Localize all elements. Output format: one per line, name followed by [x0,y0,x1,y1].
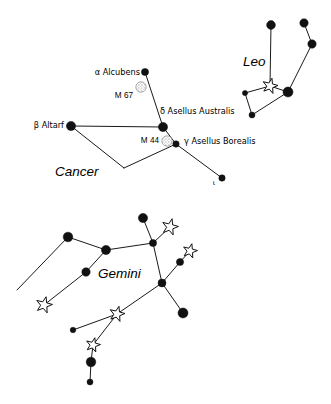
star-cancer-delta-label: δ Asellus Australis [160,106,235,116]
star-cancer-iota-dot-icon [219,175,225,181]
star-gemini-9-dot-icon [86,357,96,367]
constellation-line-leo-5 [245,93,252,115]
star-leo-regulus-open-star-icon [263,78,278,93]
star-gemini-0-dot-icon [138,213,147,222]
star-cancer-alpha-dot-icon [141,68,148,75]
constellation-line-gemini-2 [106,243,153,250]
star-chart-canvas: M 67M 44α Alcubensβ Altarfδ Asellus Aust… [0,0,331,404]
constellation-name-cancer: Cancer [55,164,99,179]
star-leo-4-dot-icon [242,90,247,95]
star-gemini-13-open-star-icon [37,297,53,313]
star-cancer-gamma-label: γ Asellus Borealis [184,136,256,146]
star-cancer-beta-dot-icon [66,121,75,130]
constellation-line-gemini-7 [44,272,86,305]
star-leo-0-dot-icon [267,21,276,30]
constellation-line-leo-0 [270,25,271,86]
star-cancer-beta-label: β Altarf [34,120,65,130]
constellation-line-gemini-4 [68,237,106,250]
star-cancer-delta-dot-icon [158,122,167,131]
cluster-label-m44: M 44 [141,136,160,145]
constellation-names-layer: CancerLeoGemini [55,54,266,281]
star-chart-figure: M 67M 44α Alcubensβ Altarfδ Asellus Aust… [0,0,331,404]
star-leo-2-dot-icon [308,40,316,48]
star-cancer-alpha-label: α Alcubens [95,67,140,77]
star-gemini-2-dot-icon [63,232,73,242]
constellation-line-gemini-11 [117,283,162,314]
star-cancer-gamma-dot-icon [173,141,179,147]
star-gemini-5-dot-icon [158,279,166,287]
cluster-m44-icon [162,136,172,146]
star-gemini-15-open-star-icon [87,338,101,352]
constellation-line-cancer-5 [176,144,222,178]
star-gemini-1-dot-icon [149,239,156,246]
constellation-name-gemini: Gemini [98,266,142,281]
star-gemini-castor-open-star-icon [163,219,179,235]
star-gemini-3-dot-icon [101,245,110,254]
constellation-name-leo: Leo [243,54,266,69]
star-cancer-iota-label: ι [213,179,216,187]
star-leo-1-dot-icon [300,19,308,27]
constellation-line-cancer-0 [145,72,163,127]
star-gemini-10-dot-icon [87,379,93,385]
star-leo-5-dot-icon [249,112,255,118]
star-gemini-8-dot-icon [70,327,76,333]
constellation-line-cancer-3 [124,144,176,168]
star-gemini-7-dot-icon [178,308,188,318]
constellation-line-cancer-1 [71,126,163,127]
constellation-line-gemini-10 [162,283,183,313]
stars-layer [37,19,316,385]
star-gemini-6-dot-icon [176,258,183,265]
star-leo-3-dot-icon [283,87,293,97]
constellation-line-leo-2 [288,44,312,92]
star-gemini-4-dot-icon [82,268,90,276]
cluster-m67-icon [136,82,146,92]
cluster-label-m67: M 67 [115,91,134,100]
constellation-line-leo-6 [252,92,288,115]
constellation-lines-layer [17,23,312,382]
constellation-line-gemini-3 [153,243,162,283]
constellation-line-cancer-2 [71,126,124,168]
constellation-line-gemini-5 [17,237,68,290]
